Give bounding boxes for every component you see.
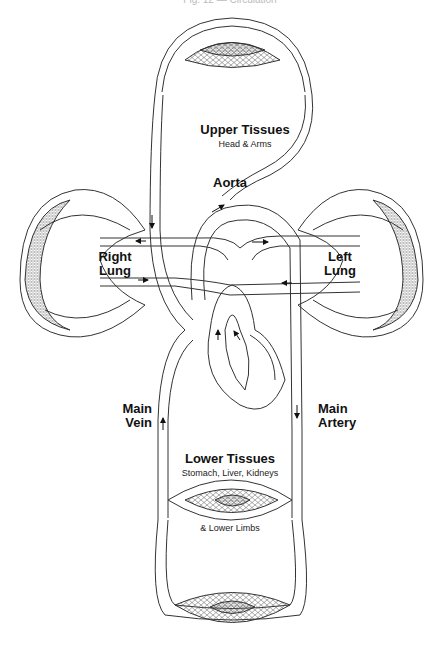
label-right-lung: Right Lung [90, 250, 140, 277]
label-lower-tissues: Lower Tissues [170, 452, 290, 466]
label-left: Left [315, 250, 365, 264]
label-main: Main [318, 402, 368, 416]
label-right: Right [90, 250, 140, 264]
label-aorta: Aorta [200, 176, 260, 190]
lower-capillary-bed [168, 480, 292, 520]
label-main-vein: Main Vein [112, 402, 152, 429]
heart [208, 285, 285, 409]
upper-capillary-bed [155, 18, 312, 95]
label-main: Main [112, 402, 152, 416]
label-left-lung: Left Lung [315, 250, 365, 277]
label-stomach-liver-kidneys: Stomach, Liver, Kidneys [160, 469, 300, 478]
label-lower-limbs: & Lower Limbs [180, 524, 280, 533]
label-main-artery: Main Artery [318, 402, 368, 429]
label-vein: Vein [112, 416, 152, 430]
lower-limbs-loop [155, 520, 306, 623]
label-lung: Lung [90, 264, 140, 278]
circulation-diagram [0, 0, 443, 661]
arrow-up-icon [234, 331, 240, 340]
aorta-arch [191, 205, 302, 430]
label-lung: Lung [315, 264, 365, 278]
label-head-arms: Head & Arms [190, 140, 300, 149]
label-artery: Artery [318, 416, 368, 430]
label-upper-tissues: Upper Tissues [190, 123, 300, 137]
